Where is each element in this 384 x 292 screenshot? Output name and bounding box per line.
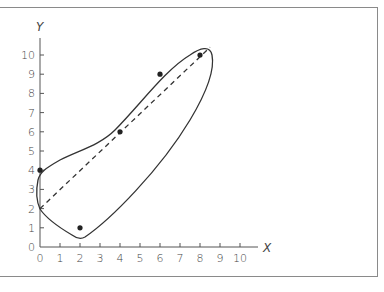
x-ticks: 012345678910: [37, 243, 248, 265]
data-point: [157, 72, 162, 77]
confidence-envelope: [37, 49, 213, 239]
x-tick-label: 1: [57, 252, 64, 265]
data-points: [37, 52, 202, 230]
x-tick-label: 10: [233, 252, 247, 265]
y-tick-label: 5: [28, 145, 35, 158]
x-tick-label: 0: [37, 252, 44, 265]
x-tick-label: 4: [117, 252, 124, 265]
y-tick-label: 1: [28, 222, 35, 235]
data-point: [77, 225, 82, 230]
data-point: [37, 168, 42, 173]
x-tick-label: 8: [197, 252, 204, 265]
x-tick-label: 2: [77, 252, 84, 265]
x-tick-label: 3: [97, 252, 104, 265]
y-tick-label: 2: [28, 203, 35, 216]
data-point: [197, 52, 202, 57]
y-tick-label: 6: [28, 126, 35, 139]
scatter-chart: 012345678910 012345678910 Y X: [0, 0, 384, 292]
x-tick-label: 5: [137, 252, 144, 265]
y-axis-label: Y: [36, 20, 45, 34]
y-ticks: 012345678910: [21, 49, 44, 254]
x-tick-label: 7: [177, 252, 184, 265]
y-tick-label: 8: [28, 87, 35, 100]
y-tick-label: 10: [21, 49, 35, 62]
data-point: [117, 129, 122, 134]
y-tick-label: 3: [28, 183, 35, 196]
y-tick-label: 0: [28, 241, 35, 254]
x-tick-label: 9: [217, 252, 224, 265]
x-tick-label: 6: [157, 252, 164, 265]
y-tick-label: 4: [28, 164, 35, 177]
y-tick-label: 7: [28, 107, 35, 120]
y-tick-label: 9: [28, 68, 35, 81]
x-axis-label: X: [262, 241, 272, 255]
